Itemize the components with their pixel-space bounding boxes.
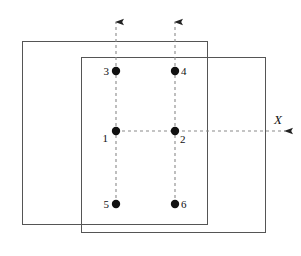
data-point-4 bbox=[171, 67, 179, 75]
data-point-label-3: 3 bbox=[104, 65, 110, 77]
data-point-6 bbox=[171, 200, 179, 208]
data-point-label-5: 5 bbox=[104, 198, 110, 210]
data-point-3 bbox=[112, 67, 120, 75]
technical-diagram: X 1 2 3 4 5 6 bbox=[0, 0, 301, 256]
data-point-5 bbox=[112, 200, 120, 208]
x-axis-label: X bbox=[273, 112, 283, 127]
data-point-2 bbox=[171, 127, 179, 135]
data-point-label-1: 1 bbox=[103, 132, 109, 144]
figure-canvas: X 1 2 3 4 5 6 bbox=[0, 0, 301, 256]
data-point-label-2: 2 bbox=[180, 133, 186, 145]
data-point-1 bbox=[112, 127, 120, 135]
data-point-label-6: 6 bbox=[181, 198, 187, 210]
data-point-label-4: 4 bbox=[181, 65, 187, 77]
